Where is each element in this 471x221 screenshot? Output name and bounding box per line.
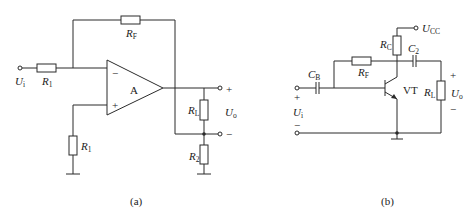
label-ui-a: Ui xyxy=(15,75,25,89)
label-rl-a: RL xyxy=(187,104,200,118)
output-plus-sign-b: + xyxy=(450,69,456,81)
label-rl-b: RL xyxy=(423,86,436,100)
label-r1-input: R1 xyxy=(41,75,53,89)
input-minus-sign-b: − xyxy=(294,119,300,131)
label-ucc: UCC xyxy=(422,22,440,36)
label-r1-ground: R1 xyxy=(80,140,92,154)
label-rf-b: RF xyxy=(357,66,369,80)
resistor-r2 xyxy=(200,145,208,164)
label-rf-a: RF xyxy=(125,27,137,41)
caption-a: (a) xyxy=(130,195,143,208)
opamp-noninverting-sign: + xyxy=(112,99,118,111)
label-cb: CB xyxy=(308,68,320,82)
output-minus-sign-b: − xyxy=(450,103,456,115)
opamp-label: A xyxy=(130,84,138,96)
resistor-rf-feedback xyxy=(121,16,140,24)
output-minus-terminal-a xyxy=(218,132,222,136)
circuit-diagrams: Ui R1 RF A − + R1 RL R2 + − Uo (a) xyxy=(0,0,471,221)
ucc-terminal xyxy=(414,26,418,30)
label-r2: R2 xyxy=(188,150,200,164)
figure-b-transistor-circuit xyxy=(295,26,445,139)
label-rc: RC xyxy=(379,38,392,52)
opamp-inverting-sign: − xyxy=(112,67,118,79)
output-minus-sign-a: − xyxy=(226,128,232,140)
label-vt: VT xyxy=(403,84,418,96)
resistor-rl-b xyxy=(437,81,445,100)
input-plus-terminal-b xyxy=(295,86,299,90)
resistor-rc xyxy=(393,36,401,55)
resistor-rl-load xyxy=(200,100,208,120)
label-ui-b: Ui xyxy=(293,106,303,120)
resistor-r1-input xyxy=(37,64,56,72)
input-minus-terminal-b xyxy=(295,131,299,135)
output-plus-sign-a: + xyxy=(226,83,232,95)
resistor-r1-ground xyxy=(69,136,77,155)
label-uo-a: Uo xyxy=(225,106,237,120)
label-c2: C2 xyxy=(408,42,419,56)
output-plus-terminal-a xyxy=(218,86,222,90)
resistor-rf-b xyxy=(352,57,371,65)
caption-b: (b) xyxy=(381,195,394,208)
input-plus-sign-b: + xyxy=(294,91,300,103)
input-terminal-a xyxy=(18,66,22,70)
label-uo-b: Uo xyxy=(451,87,463,101)
